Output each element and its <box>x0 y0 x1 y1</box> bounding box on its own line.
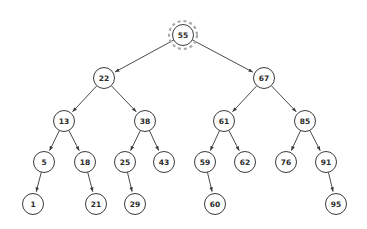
tree-edge-85-to-91 <box>310 130 320 150</box>
tree-edge-22-to-38 <box>111 86 136 112</box>
tree-node-43[interactable]: 43 <box>154 152 175 173</box>
binary-tree-diagram: 55226713386185518254359627691121296095 <box>0 0 367 229</box>
tree-node-95[interactable]: 95 <box>326 194 347 215</box>
tree-edge-91-to-95 <box>328 172 333 191</box>
tree-node-25[interactable]: 25 <box>115 152 136 173</box>
tree-node-59[interactable]: 59 <box>195 152 216 173</box>
tree-edge-55-to-67 <box>192 40 253 72</box>
node-circle[interactable] <box>94 68 115 89</box>
tree-node-61[interactable]: 61 <box>214 111 235 132</box>
tree-edge-13-to-18 <box>69 130 79 150</box>
tree-edge-38-to-25 <box>131 130 141 150</box>
node-circle[interactable] <box>154 152 175 173</box>
node-circle[interactable] <box>125 194 146 215</box>
tree-edge-55-to-22 <box>115 40 174 72</box>
tree-node-1[interactable]: 1 <box>23 194 44 215</box>
tree-node-18[interactable]: 18 <box>75 152 96 173</box>
node-circle[interactable] <box>34 152 55 173</box>
node-circle[interactable] <box>326 194 347 215</box>
tree-node-62[interactable]: 62 <box>235 152 256 173</box>
tree-edge-67-to-85 <box>271 86 296 112</box>
tree-edge-5-to-1 <box>36 172 41 192</box>
tree-node-60[interactable]: 60 <box>205 194 226 215</box>
node-circle[interactable] <box>276 152 297 173</box>
node-circle[interactable] <box>254 68 275 89</box>
node-circle[interactable] <box>235 152 256 173</box>
tree-edge-38-to-43 <box>149 131 158 151</box>
tree-node-5[interactable]: 5 <box>34 152 55 173</box>
node-circle[interactable] <box>316 152 337 173</box>
tree-node-13[interactable]: 13 <box>54 111 75 132</box>
tree-svg-canvas: 55226713386185518254359627691121296095 <box>0 0 367 229</box>
node-circle[interactable] <box>214 111 235 132</box>
tree-edge-59-to-60 <box>207 172 212 191</box>
node-circle[interactable] <box>54 111 75 132</box>
node-circle[interactable] <box>75 152 96 173</box>
tree-edge-61-to-62 <box>229 130 239 150</box>
node-circle[interactable] <box>135 111 156 132</box>
node-circle[interactable] <box>205 194 226 215</box>
tree-edge-67-to-61 <box>233 86 257 112</box>
tree-nodes-layer: 55226713386185518254359627691121296095 <box>23 21 347 215</box>
tree-edge-61-to-59 <box>210 131 219 151</box>
tree-node-21[interactable]: 21 <box>86 194 107 215</box>
tree-edge-85-to-76 <box>291 131 300 151</box>
node-circle[interactable] <box>23 194 44 215</box>
tree-edge-13-to-5 <box>50 130 60 150</box>
tree-edge-22-to-13 <box>73 86 97 112</box>
tree-node-91[interactable]: 91 <box>316 152 337 173</box>
tree-node-55[interactable]: 55 <box>169 21 197 49</box>
tree-node-38[interactable]: 38 <box>135 111 156 132</box>
tree-node-22[interactable]: 22 <box>94 68 115 89</box>
tree-node-76[interactable]: 76 <box>276 152 297 173</box>
tree-edge-18-to-21 <box>88 172 93 192</box>
tree-node-67[interactable]: 67 <box>254 68 275 89</box>
node-circle[interactable] <box>173 25 194 46</box>
node-circle[interactable] <box>195 152 216 173</box>
node-circle[interactable] <box>86 194 107 215</box>
node-circle[interactable] <box>295 111 316 132</box>
node-circle[interactable] <box>115 152 136 173</box>
tree-node-85[interactable]: 85 <box>295 111 316 132</box>
tree-node-29[interactable]: 29 <box>125 194 146 215</box>
tree-edge-25-to-29 <box>127 172 132 191</box>
